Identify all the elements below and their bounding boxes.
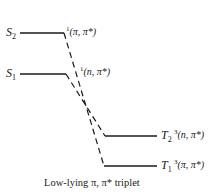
level-label-t1: T1 <box>161 159 172 174</box>
term-symbol-s2: 1(π, π*) <box>66 26 96 37</box>
diagram-caption: Low-lying π, π* triplet <box>44 177 140 188</box>
term-symbol-t2: 3(n, π*) <box>174 129 204 140</box>
term-symbol-s1: 1(n, π*) <box>80 66 110 77</box>
connector-s2-t1 <box>64 33 104 166</box>
level-label-s1: S1 <box>6 67 16 82</box>
term-symbol-t1: 3(π, π*) <box>174 159 204 170</box>
level-label-s2: S2 <box>6 26 16 41</box>
level-label-t2: T2 <box>161 129 172 144</box>
